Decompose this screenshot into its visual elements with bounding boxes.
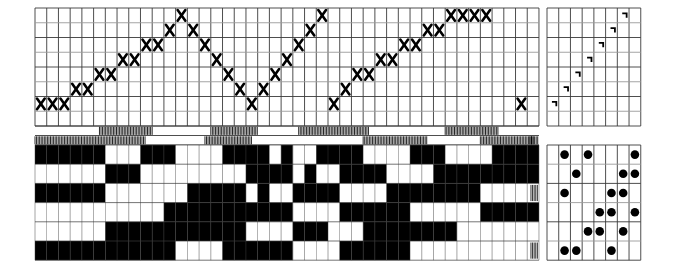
tieup-corner-hook-icon[interactable] [611,28,615,32]
drawdown-cell[interactable] [469,203,481,222]
drawdown-cell[interactable] [70,183,82,202]
drawdown-cell[interactable] [58,183,70,202]
drawdown-cell[interactable] [363,241,375,260]
drawdown-cell[interactable] [70,145,82,164]
drawdown-cell[interactable] [129,222,141,241]
threading-x-mark[interactable] [72,84,80,95]
drawdown-cell[interactable] [351,203,363,222]
drawdown-cell[interactable] [234,183,246,202]
drawdown-cell[interactable] [398,164,410,183]
drawdown-cell[interactable] [35,164,47,183]
drawdown-cell[interactable] [351,183,363,202]
drawdown-cell[interactable] [187,164,199,183]
drawdown-cell[interactable] [234,164,246,183]
drawdown-cell[interactable] [340,164,352,183]
drawdown-cell[interactable] [375,241,387,260]
drawdown-cell[interactable] [492,145,504,164]
drawdown-cell[interactable] [422,164,434,183]
drawdown-cell[interactable] [527,222,539,241]
drawdown-cell[interactable] [47,164,59,183]
threading-x-mark[interactable] [213,54,221,65]
drawdown-cell[interactable] [281,164,293,183]
drawdown-cell[interactable] [152,145,164,164]
drawdown-cell[interactable] [176,183,188,202]
drawdown-cell[interactable] [199,203,211,222]
drawdown-cell[interactable] [47,241,59,260]
drawdown-cell[interactable] [269,241,281,260]
drawdown-cell[interactable] [211,222,223,241]
drawdown-cell[interactable] [410,241,422,260]
drawdown-cell[interactable] [293,222,305,241]
drawdown-cell[interactable] [269,164,281,183]
drawdown-cell[interactable] [82,203,94,222]
drawdown-cell[interactable] [445,241,457,260]
threading-x-mark[interactable] [447,10,455,21]
drawdown-cell[interactable] [187,145,199,164]
drawdown-cell[interactable] [422,203,434,222]
drawdown-cell[interactable] [152,183,164,202]
drawdown-cell[interactable] [480,183,492,202]
drawdown-cell[interactable] [504,241,516,260]
drawdown-cell[interactable] [199,145,211,164]
threading-x-mark[interactable] [201,40,209,51]
drawdown-cell[interactable] [410,203,422,222]
drawdown-cell[interactable] [387,145,399,164]
drawdown-cell[interactable] [328,164,340,183]
threading-x-mark[interactable] [119,54,127,65]
drawdown-cell[interactable] [58,222,70,241]
drawdown-cell[interactable] [340,241,352,260]
drawdown-cell[interactable] [492,222,504,241]
drawdown-cell[interactable] [176,241,188,260]
threading-x-mark[interactable] [459,10,467,21]
drawdown-cell[interactable] [457,164,469,183]
threading-x-mark[interactable] [248,99,256,110]
drawdown-cell[interactable] [281,183,293,202]
drawdown-cell[interactable] [129,241,141,260]
drawdown-cell[interactable] [105,164,117,183]
threading-x-mark[interactable] [471,10,479,21]
drawdown-cell[interactable] [375,145,387,164]
drawdown-cell[interactable] [351,241,363,260]
tieup-marks[interactable] [552,13,627,106]
drawdown-cell[interactable] [164,164,176,183]
drawdown-cell[interactable] [258,145,270,164]
drawdown-cell[interactable] [293,241,305,260]
drawdown-cell[interactable] [492,164,504,183]
threading-x-mark[interactable] [307,25,315,36]
drawdown-cell[interactable] [410,183,422,202]
threading-x-mark[interactable] [60,99,68,110]
drawdown-cell[interactable] [387,183,399,202]
threading-x-mark[interactable] [400,40,408,51]
drawdown-cell[interactable] [35,145,47,164]
drawdown-cell[interactable] [234,222,246,241]
drawdown-cell[interactable] [410,145,422,164]
drawdown-cell[interactable] [70,222,82,241]
drawdown-cell[interactable] [480,164,492,183]
treadling-dot[interactable] [560,246,569,255]
drawdown-cell[interactable] [140,164,152,183]
drawdown-cell[interactable] [516,222,528,241]
treadling-grid[interactable] [547,145,641,260]
drawdown-cell[interactable] [234,145,246,164]
drawdown-cell[interactable] [422,222,434,241]
drawdown-cell[interactable] [316,222,328,241]
drawdown-cell[interactable] [516,203,528,222]
threading-x-mark[interactable] [295,40,303,51]
drawdown-cell[interactable] [105,241,117,260]
drawdown-cell[interactable] [433,145,445,164]
threading-x-mark[interactable] [342,84,350,95]
drawdown-cell[interactable] [328,222,340,241]
drawdown-cell[interactable] [82,183,94,202]
tieup-corner-hook-icon[interactable] [564,87,568,91]
drawdown-cell[interactable] [223,164,235,183]
drawdown-cell[interactable] [105,183,117,202]
drawdown-cell[interactable] [398,145,410,164]
drawdown-cell[interactable] [152,241,164,260]
drawdown-cell[interactable] [422,145,434,164]
drawdown-cell[interactable] [164,145,176,164]
threading-x-mark[interactable] [330,99,338,110]
drawdown-cell[interactable] [305,241,317,260]
drawdown-cell[interactable] [258,203,270,222]
drawdown-cell[interactable] [305,183,317,202]
drawdown-cell[interactable] [82,241,94,260]
